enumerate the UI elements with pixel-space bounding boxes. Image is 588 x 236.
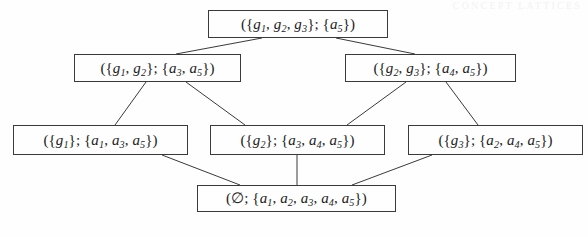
lattice-edge	[162, 155, 240, 185]
lattice-node-n-g1g2[interactable]: ({g1, g2}; {a3, a5})	[74, 54, 241, 82]
lattice-node-label: ({g3}; {a2, a4, a5})	[438, 133, 552, 148]
lattice-node-label: ({g1}; {a1, a3, a5})	[43, 133, 157, 148]
lattice-edge	[186, 82, 245, 125]
lattice-node-label: ({g2, g3}; {a4, a5})	[373, 61, 487, 76]
lattice-node-label: ({g1, g2, g3}; {a5})	[241, 17, 355, 32]
lattice-node-n-g1[interactable]: ({g1}; {a1, a3, a5})	[13, 125, 188, 155]
lattice-edge	[352, 155, 432, 185]
lattice-node-n-g2g3[interactable]: ({g2, g3}; {a4, a5})	[345, 54, 516, 82]
lattice-node-label: (∅; {a1, a2, a3, a4, a5})	[226, 191, 367, 206]
lattice-edge	[176, 38, 262, 54]
lattice-edge	[336, 38, 415, 54]
lattice-node-label: ({g1, g2}; {a3, a5})	[100, 61, 214, 76]
figure-canvas: CONCEPT LATTICES ({g1, g2, g3}; {a5})({g…	[0, 0, 588, 236]
lattice-node-top[interactable]: ({g1, g2, g3}; {a5})	[208, 10, 388, 38]
lattice-edge	[347, 82, 406, 125]
lattice-node-n-g3[interactable]: ({g3}; {a2, a4, a5})	[408, 125, 583, 155]
lattice-edge	[446, 82, 478, 125]
lattice-node-label: ({g2}; {a3, a4, a5})	[240, 133, 354, 148]
lattice-node-bottom[interactable]: (∅; {a1, a2, a3, a4, a5})	[197, 185, 396, 212]
lattice-node-n-g2[interactable]: ({g2}; {a3, a4, a5})	[210, 125, 385, 155]
lattice-edge	[115, 82, 146, 125]
